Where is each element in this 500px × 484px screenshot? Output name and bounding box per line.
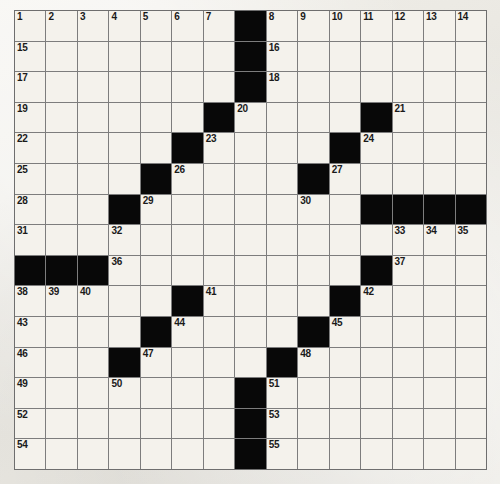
grid-cell[interactable] <box>141 72 171 102</box>
grid-cell[interactable] <box>78 164 108 194</box>
grid-cell[interactable] <box>267 225 297 255</box>
grid-cell[interactable] <box>109 72 139 102</box>
grid-cell[interactable] <box>109 133 139 163</box>
grid-cell[interactable] <box>456 378 486 408</box>
grid-cell[interactable]: 27 <box>330 164 360 194</box>
grid-cell[interactable] <box>235 225 265 255</box>
grid-cell[interactable] <box>393 317 423 347</box>
grid-cell[interactable] <box>298 72 328 102</box>
grid-cell[interactable] <box>361 42 391 72</box>
grid-cell[interactable]: 36 <box>109 256 139 286</box>
grid-cell[interactable]: 7 <box>204 11 234 41</box>
grid-cell[interactable]: 33 <box>393 225 423 255</box>
grid-cell[interactable] <box>204 256 234 286</box>
grid-cell[interactable] <box>204 195 234 225</box>
grid-cell[interactable] <box>393 409 423 439</box>
grid-cell[interactable] <box>456 42 486 72</box>
grid-cell[interactable] <box>361 409 391 439</box>
grid-cell[interactable] <box>424 348 454 378</box>
grid-cell[interactable]: 17 <box>15 72 45 102</box>
grid-cell[interactable] <box>204 348 234 378</box>
grid-cell[interactable]: 10 <box>330 11 360 41</box>
grid-cell[interactable]: 25 <box>15 164 45 194</box>
grid-cell[interactable]: 44 <box>172 317 202 347</box>
grid-cell[interactable] <box>456 348 486 378</box>
grid-cell[interactable] <box>456 286 486 316</box>
grid-cell[interactable] <box>267 164 297 194</box>
grid-cell[interactable]: 16 <box>267 42 297 72</box>
grid-cell[interactable] <box>172 195 202 225</box>
grid-cell[interactable]: 39 <box>46 286 76 316</box>
grid-cell[interactable]: 19 <box>15 103 45 133</box>
grid-cell[interactable] <box>46 317 76 347</box>
grid-cell[interactable] <box>330 439 360 469</box>
grid-cell[interactable] <box>424 133 454 163</box>
grid-cell[interactable] <box>46 72 76 102</box>
grid-cell[interactable]: 23 <box>204 133 234 163</box>
grid-cell[interactable] <box>267 317 297 347</box>
grid-cell[interactable] <box>424 42 454 72</box>
grid-cell[interactable] <box>46 133 76 163</box>
grid-cell[interactable] <box>330 256 360 286</box>
grid-cell[interactable] <box>109 164 139 194</box>
grid-cell[interactable]: 24 <box>361 133 391 163</box>
grid-cell[interactable]: 8 <box>267 11 297 41</box>
grid-cell[interactable] <box>393 72 423 102</box>
grid-cell[interactable] <box>141 409 171 439</box>
grid-cell[interactable] <box>109 439 139 469</box>
grid-cell[interactable] <box>172 42 202 72</box>
grid-cell[interactable]: 28 <box>15 195 45 225</box>
grid-cell[interactable] <box>424 409 454 439</box>
grid-cell[interactable] <box>361 348 391 378</box>
grid-cell[interactable] <box>78 133 108 163</box>
grid-cell[interactable] <box>393 42 423 72</box>
grid-cell[interactable] <box>267 286 297 316</box>
grid-cell[interactable]: 35 <box>456 225 486 255</box>
grid-cell[interactable]: 51 <box>267 378 297 408</box>
grid-cell[interactable] <box>393 286 423 316</box>
grid-cell[interactable]: 34 <box>424 225 454 255</box>
grid-cell[interactable]: 13 <box>424 11 454 41</box>
grid-cell[interactable] <box>298 103 328 133</box>
grid-cell[interactable]: 45 <box>330 317 360 347</box>
grid-cell[interactable] <box>172 409 202 439</box>
grid-cell[interactable] <box>141 286 171 316</box>
grid-cell[interactable] <box>330 195 360 225</box>
grid-cell[interactable] <box>393 439 423 469</box>
grid-cell[interactable] <box>267 256 297 286</box>
grid-cell[interactable] <box>424 317 454 347</box>
grid-cell[interactable] <box>456 256 486 286</box>
grid-cell[interactable] <box>424 286 454 316</box>
grid-cell[interactable] <box>78 225 108 255</box>
grid-cell[interactable] <box>46 409 76 439</box>
grid-cell[interactable]: 5 <box>141 11 171 41</box>
grid-cell[interactable] <box>172 225 202 255</box>
grid-cell[interactable] <box>172 439 202 469</box>
grid-cell[interactable] <box>330 348 360 378</box>
grid-cell[interactable]: 11 <box>361 11 391 41</box>
grid-cell[interactable]: 14 <box>456 11 486 41</box>
grid-cell[interactable] <box>78 439 108 469</box>
grid-cell[interactable] <box>267 103 297 133</box>
grid-cell[interactable] <box>141 439 171 469</box>
grid-cell[interactable] <box>78 348 108 378</box>
grid-cell[interactable]: 48 <box>298 348 328 378</box>
grid-cell[interactable] <box>204 164 234 194</box>
grid-cell[interactable] <box>172 72 202 102</box>
grid-cell[interactable] <box>330 225 360 255</box>
grid-cell[interactable] <box>298 256 328 286</box>
grid-cell[interactable] <box>456 103 486 133</box>
grid-cell[interactable] <box>109 317 139 347</box>
grid-cell[interactable] <box>78 317 108 347</box>
grid-cell[interactable]: 15 <box>15 42 45 72</box>
grid-cell[interactable] <box>330 378 360 408</box>
grid-cell[interactable]: 53 <box>267 409 297 439</box>
grid-cell[interactable] <box>78 409 108 439</box>
grid-cell[interactable]: 26 <box>172 164 202 194</box>
grid-cell[interactable]: 18 <box>267 72 297 102</box>
grid-cell[interactable] <box>235 256 265 286</box>
grid-cell[interactable] <box>330 409 360 439</box>
grid-cell[interactable] <box>78 378 108 408</box>
grid-cell[interactable]: 32 <box>109 225 139 255</box>
grid-cell[interactable] <box>330 72 360 102</box>
